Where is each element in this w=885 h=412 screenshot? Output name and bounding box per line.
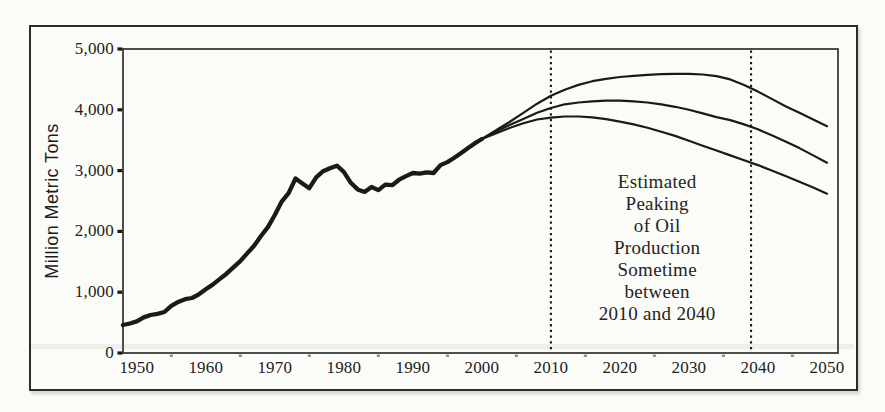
- y-tick-mark-0: [117, 351, 122, 354]
- annotation-line-4: Production: [571, 237, 743, 259]
- x-tick-label-2000: 2000: [448, 358, 516, 378]
- x-tick-label-2010: 2010: [517, 358, 585, 378]
- x-tick-label-1970: 1970: [241, 358, 309, 378]
- x-tick-label-1990: 1990: [379, 358, 447, 378]
- y-tick-mark-4000: [117, 108, 122, 111]
- series-scenario-mid-peak-2020: [482, 101, 827, 163]
- oil-production-chart-canvas: [0, 0, 885, 412]
- annotation-line-6: between: [571, 281, 743, 303]
- annotation-line-5: Sometime: [571, 259, 743, 281]
- x-minor-tick-2025: [653, 355, 656, 357]
- x-tick-label-2030: 2030: [655, 358, 723, 378]
- y-tick-mark-5000: [117, 47, 122, 50]
- x-minor-tick-2035: [722, 355, 725, 357]
- x-tick-label-2040: 2040: [724, 358, 792, 378]
- annotation-line-2: Peaking: [571, 193, 743, 215]
- x-minor-tick-1975: [308, 355, 311, 357]
- series-historical-production: [123, 139, 482, 325]
- scanned-figure-page: Million Metric Tons 01,0002,0003,0004,00…: [0, 0, 885, 412]
- x-minor-tick-1955: [170, 355, 173, 357]
- x-tick-label-1960: 1960: [172, 358, 240, 378]
- y-tick-label-1000: 1,000: [36, 282, 114, 302]
- x-tick-label-1950: 1950: [103, 358, 171, 378]
- y-tick-label-4000: 4,000: [36, 100, 114, 120]
- y-tick-label-5000: 5,000: [36, 39, 114, 59]
- y-tick-label-2000: 2,000: [36, 221, 114, 241]
- x-tick-label-2050: 2050: [793, 358, 861, 378]
- x-minor-tick-1985: [377, 355, 380, 357]
- y-tick-label-3000: 3,000: [36, 161, 114, 181]
- y-tick-mark-1000: [117, 291, 122, 294]
- y-tick-mark-3000: [117, 169, 122, 172]
- annotation-line-3: of Oil: [571, 215, 743, 237]
- y-axis-title: Million Metric Tons: [42, 123, 63, 278]
- annotation-line-7: 2010 and 2040: [571, 303, 743, 325]
- x-minor-tick-1995: [446, 355, 449, 357]
- x-minor-tick-2005: [515, 355, 518, 357]
- y-tick-mark-2000: [117, 230, 122, 233]
- peaking-annotation: EstimatedPeakingof OilProductionSometime…: [571, 171, 743, 325]
- annotation-line-1: Estimated: [571, 171, 743, 193]
- x-minor-tick-2045: [791, 355, 794, 357]
- x-tick-label-1980: 1980: [310, 358, 378, 378]
- x-minor-tick-2015: [584, 355, 587, 357]
- x-tick-label-2020: 2020: [586, 358, 654, 378]
- x-minor-tick-1965: [239, 355, 242, 357]
